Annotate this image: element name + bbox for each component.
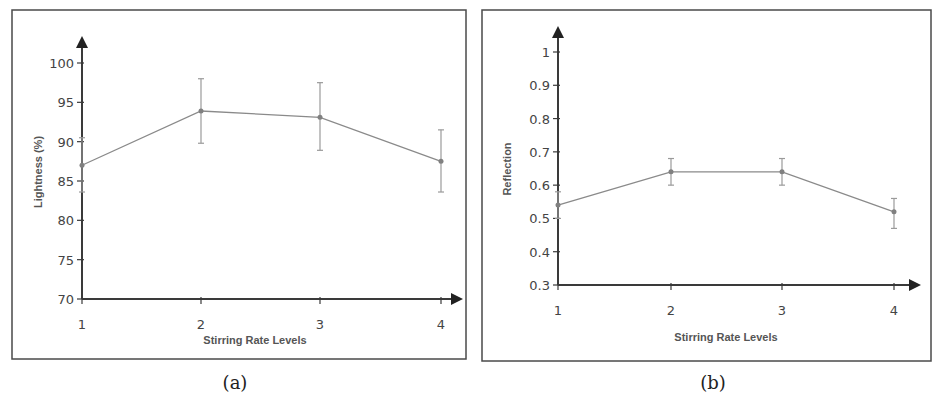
y-tick-label: 0.8 xyxy=(529,112,550,127)
y-tick-label: 0.9 xyxy=(529,78,550,93)
y-tick-label: 0.6 xyxy=(529,178,550,193)
data-point xyxy=(892,209,897,214)
y-tick-label: 70 xyxy=(57,292,74,307)
y-tick-label: 1 xyxy=(542,45,550,60)
y-axis-label-b: Reflection xyxy=(501,142,513,195)
data-point xyxy=(199,108,204,113)
x-tick-label: 3 xyxy=(316,317,324,332)
x-axis-label-a: Stirring Rate Levels xyxy=(203,334,306,346)
caption-a: (a) xyxy=(223,372,248,393)
chart-frame-a xyxy=(12,10,466,359)
figure: 7075808590951001234 Stirring Rate Levels… xyxy=(0,0,939,411)
y-tick-label: 0.5 xyxy=(529,211,550,226)
x-tick-label: 4 xyxy=(890,303,898,318)
data-point xyxy=(439,159,444,164)
y-tick-label: 0.3 xyxy=(529,278,550,293)
x-tick-label: 1 xyxy=(554,303,562,318)
data-point xyxy=(318,115,323,120)
y-tick-label: 0.7 xyxy=(529,145,550,160)
y-tick-label: 75 xyxy=(57,253,74,268)
y-tick-label: 0.4 xyxy=(529,245,550,260)
y-axis-label-a: Lightness (%) xyxy=(32,136,44,208)
y-tick-label: 90 xyxy=(57,135,74,150)
chart-panel-a: 7075808590951001234 Stirring Rate Levels… xyxy=(12,10,466,393)
x-tick-label: 2 xyxy=(667,303,675,318)
x-axis-label-b: Stirring Rate Levels xyxy=(674,331,777,343)
caption-b: (b) xyxy=(700,372,726,393)
data-point xyxy=(556,203,561,208)
x-tick-label: 1 xyxy=(78,317,86,332)
y-tick-label: 85 xyxy=(57,174,74,189)
x-tick-label: 4 xyxy=(437,317,445,332)
y-tick-label: 80 xyxy=(57,213,74,228)
chart-panel-b: 0.30.40.50.60.70.80.911234 Stirring Rate… xyxy=(482,10,931,393)
data-point xyxy=(780,169,785,174)
y-tick-label: 95 xyxy=(57,95,74,110)
data-point xyxy=(80,163,85,168)
x-tick-label: 2 xyxy=(197,317,205,332)
y-tick-label: 100 xyxy=(49,56,74,71)
x-tick-label: 3 xyxy=(778,303,786,318)
data-point xyxy=(669,169,674,174)
